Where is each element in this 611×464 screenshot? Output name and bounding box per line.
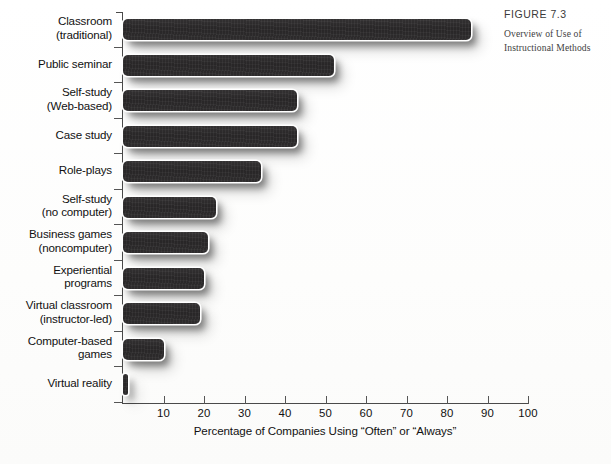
bar-row: Case study [0,119,504,155]
category-label-line-1: Experiential [0,263,112,277]
category-label-line-1: Business games [0,227,112,241]
category-label-line-1: Self-study [0,192,112,206]
x-axis-tick [488,396,489,404]
y-axis-tick [114,295,122,296]
figure-page: Classroom(traditional)Public seminarSelf… [0,0,611,464]
y-axis-tick [114,366,122,367]
bar [123,19,471,40]
x-axis-tick-label: 50 [306,407,346,419]
category-label-line-2: (Web-based) [0,99,112,113]
bar-chart: Classroom(traditional)Public seminarSelf… [0,0,504,450]
category-label-line-1: Self-study [0,85,112,99]
bar [123,268,204,289]
category-label: Public seminar [0,57,112,71]
x-axis-tick [164,396,165,404]
bar-row: Classroom(traditional) [0,12,504,48]
bar-row: Self-study(no computer) [0,190,504,226]
figure-caption-line-1: Overview of Use of [504,27,608,41]
category-label-line-2: programs [0,276,112,290]
y-axis-tick [114,331,122,332]
bar-row: Virtual classroom(instructor-led) [0,296,504,332]
category-label-line-1: Virtual reality [0,376,112,390]
y-axis-tick [114,224,122,225]
bar [123,197,216,218]
category-label: Computer-basedgames [0,334,112,361]
x-axis-tick [528,396,529,404]
bar [123,303,200,324]
x-axis-tick [245,396,246,404]
category-label: Self-study(no computer) [0,192,112,219]
category-label-line-2: (instructor-led) [0,312,112,326]
y-axis-tick [114,82,122,83]
category-label: Virtual classroom(instructor-led) [0,298,112,325]
x-axis-tick [204,396,205,404]
bar-row: Computer-basedgames [0,332,504,368]
bar [123,90,297,111]
bar-row: Virtual reality [0,367,504,403]
y-axis-tick [114,260,122,261]
x-axis-tick-label: 60 [346,407,386,419]
category-label: Case study [0,128,112,142]
category-label-line-1: Case study [0,128,112,142]
category-label-line-1: Role-plays [0,163,112,177]
figure-number: FIGURE 7.3 [504,8,608,20]
x-axis-tick-label: 100 [508,407,548,419]
category-label: Classroom(traditional) [0,14,112,41]
x-axis-title: Percentage of Companies Using “Often” or… [122,424,528,437]
bar [123,55,334,76]
source-note [28,460,588,464]
category-label: Business games(noncomputer) [0,227,112,254]
category-label: Experientialprograms [0,263,112,290]
bar [123,126,297,147]
x-axis-tick-label: 90 [468,407,508,419]
x-axis-tick-label: 80 [427,407,467,419]
x-axis-tick [326,396,327,404]
figure-caption-line-2: Instructional Methods [504,41,608,55]
x-axis-tick-label: 40 [265,407,305,419]
category-label-line-2: (noncomputer) [0,241,112,255]
bar-row: Role-plays [0,154,504,190]
category-label: Self-study(Web-based) [0,85,112,112]
bar-row: Experientialprograms [0,261,504,297]
figure-caption-text: Overview of Use of Instructional Methods [504,27,608,54]
bar [123,339,164,360]
bar-row: Public seminar [0,48,504,84]
category-label-line-2: (no computer) [0,205,112,219]
bar [123,374,128,395]
category-label-line-1: Computer-based [0,334,112,348]
category-label: Role-plays [0,163,112,177]
y-axis-tick [114,402,122,403]
figure-caption: FIGURE 7.3 Overview of Use of Instructio… [504,8,608,54]
y-axis-tick [114,118,122,119]
category-label-line-1: Virtual classroom [0,298,112,312]
y-axis-tick [114,153,122,154]
category-label-line-2: games [0,347,112,361]
bar [123,161,261,182]
x-axis-tick [285,396,286,404]
category-label-line-1: Classroom [0,14,112,28]
x-axis-tick [447,396,448,404]
x-axis-tick-label: 10 [144,407,184,419]
y-axis-tick [114,47,122,48]
category-label-line-1: Public seminar [0,57,112,71]
category-label-line-2: (traditional) [0,28,112,42]
x-axis-tick [407,396,408,404]
x-axis-tick-label: 70 [387,407,427,419]
bar [123,232,208,253]
category-label: Virtual reality [0,376,112,390]
bar-row: Business games(noncomputer) [0,225,504,261]
x-axis-tick-label: 30 [225,407,265,419]
x-axis-tick-label: 20 [184,407,224,419]
x-axis-tick [366,396,367,404]
bar-row: Self-study(Web-based) [0,83,504,119]
y-axis-tick [114,189,122,190]
